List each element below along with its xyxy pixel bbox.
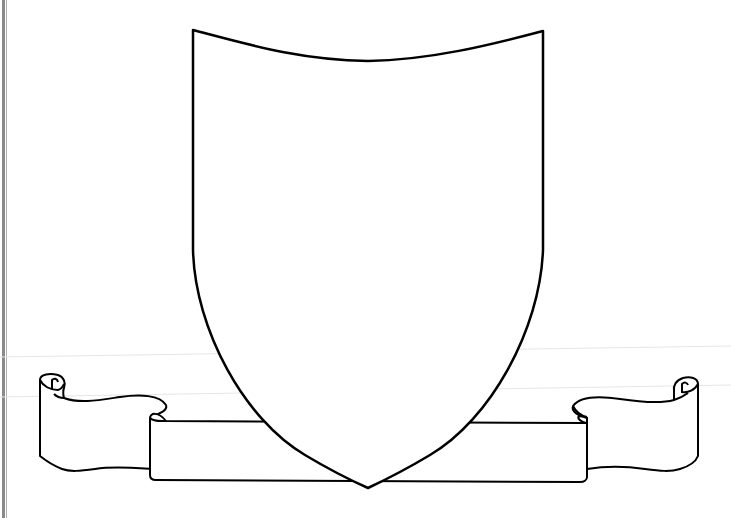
shield-outline: [193, 30, 543, 488]
shield-and-banner-illustration: [0, 0, 731, 518]
banner-left-scroll: [40, 374, 166, 471]
banner-right-scroll: [573, 377, 698, 471]
